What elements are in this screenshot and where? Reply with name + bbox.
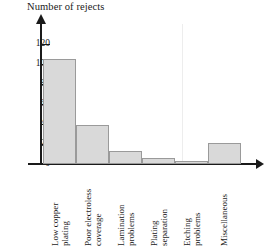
y-tick-label: 120 (22, 39, 50, 48)
bar-miscellaneous[interactable] (208, 143, 241, 164)
x-label-line-1: Poor electroless (83, 189, 93, 246)
x-label-line-1: Miscellaneous (219, 194, 229, 246)
bar-etching-problems[interactable] (175, 161, 208, 164)
y-tick-0: 0 (0, 164, 50, 165)
bar-poor-electroless-coverage[interactable] (76, 125, 109, 164)
bar-low-copper-plating[interactable] (43, 59, 76, 164)
x-label-line-2: coverage (93, 214, 103, 246)
y-axis-arrowhead (36, 14, 46, 24)
x-label-line-1: Lamination (116, 205, 126, 247)
x-label-line-1: Etching (182, 218, 192, 246)
x-label-line-1: Low copper (50, 203, 60, 246)
bar-lamination-problems[interactable] (109, 151, 142, 164)
x-label-low-copper-plating: Low copper plating (50, 168, 51, 250)
x-label-miscellaneous: Miscellaneous (219, 168, 220, 250)
x-label-line-1: Plating (149, 220, 159, 246)
bar-plating-separation[interactable] (142, 158, 175, 164)
chart-title: Number of rejects (27, 1, 105, 12)
x-label-lamination-problems: Lamination problems (116, 168, 117, 250)
x-label-line-2: problems (192, 213, 202, 247)
x-label-poor-electroless-coverage: Poor electroless coverage (83, 168, 84, 250)
x-label-line-2: problems (126, 213, 136, 247)
x-label-line-2: separation (159, 209, 169, 246)
x-label-plating-separation: Plating separation (149, 168, 150, 250)
x-axis-arrowhead (256, 159, 264, 169)
bar-chart: Number of rejects 120 100 80 60 40 20 0 … (0, 0, 264, 250)
x-label-line-2: plating (60, 221, 70, 246)
plot-guide-line (182, 24, 183, 164)
x-label-etching-problems: Etching problems (182, 168, 183, 250)
y-tick-120: 120 (0, 44, 50, 45)
